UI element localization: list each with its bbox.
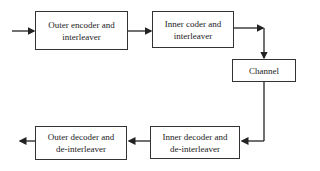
channel-block: Channel <box>232 59 296 82</box>
block-label: Inner decoder and <box>163 131 228 143</box>
outer-decoder-block: Outer decoder andde-interleaver <box>35 126 127 160</box>
block-label: interleaver <box>165 30 221 42</box>
block-label: de-interleaver <box>48 143 114 155</box>
block-label: interleaver <box>48 31 114 43</box>
block-label: Outer decoder and <box>48 131 114 143</box>
block-label: Outer encoder and <box>48 19 114 31</box>
block-label: Inner coder and <box>165 18 221 30</box>
block-label: de-interleaver <box>163 143 228 155</box>
inner-decoder-block: Inner decoder andde-interleaver <box>150 126 240 159</box>
inner-coder-block: Inner coder andinterleaver <box>152 11 234 48</box>
block-label: Channel <box>249 65 279 77</box>
outer-encoder-block: Outer encoder andinterleaver <box>35 11 128 50</box>
